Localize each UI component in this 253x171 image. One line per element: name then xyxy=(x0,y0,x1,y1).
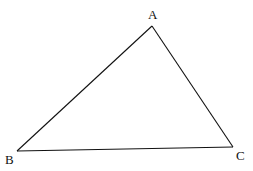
vertex-label-a: A xyxy=(148,7,158,22)
edge-bc xyxy=(17,147,233,151)
edge-ca xyxy=(152,26,233,147)
triangle-edges xyxy=(17,26,233,151)
triangle-diagram: A B C xyxy=(0,0,253,171)
vertex-label-c: C xyxy=(236,148,245,163)
vertex-label-b: B xyxy=(5,152,14,167)
vertex-labels: A B C xyxy=(5,7,245,167)
edge-ab xyxy=(17,26,152,151)
